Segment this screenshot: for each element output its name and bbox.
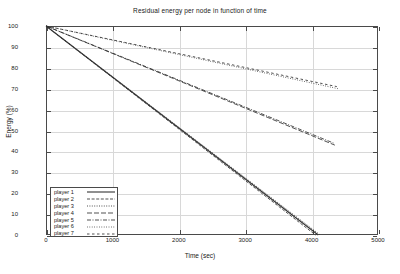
legend-item-label: player 5 [54,217,86,224]
x-axis-tick [180,230,181,234]
x-axis-tick [47,230,48,234]
y-axis-tick [373,152,377,153]
legend-item: player 1 [54,189,115,196]
x-axis-label: 2000 [172,237,185,243]
x-axis-label: 1000 [106,237,119,243]
legend-line-swatch [86,203,115,209]
x-axis-tick [246,230,247,234]
legend-item-label: player 3 [54,203,86,210]
legend-item-label: player 4 [54,210,86,217]
legend-item: player 2 [54,196,115,203]
y-axis-label: 50 [11,128,18,134]
y-axis-tick [373,111,377,112]
x-axis-title: Time (sec) [0,252,400,259]
x-axis-label: 5000 [371,237,384,243]
y-axis-tick [373,173,377,174]
legend-line-swatch [86,231,115,237]
y-axis-label: 10 [11,211,18,217]
legend-item-label: player 2 [54,196,86,203]
y-axis-tick [47,69,51,70]
y-axis-tick [47,90,51,91]
y-axis-tick [373,194,377,195]
y-axis-label: 90 [11,44,18,50]
y-axis-title: Energy (%) [5,92,12,152]
x-axis-tick [246,27,247,31]
y-axis-label: 70 [11,86,18,92]
y-axis-label: 100 [8,23,18,29]
x-axis-tick [113,27,114,31]
legend-item-label: player 6 [54,223,86,230]
gridline-vertical [180,27,181,234]
x-axis-tick [379,27,380,31]
gridline-horizontal [47,173,377,174]
legend-item-label: player 1 [54,189,86,196]
y-axis-tick [373,132,377,133]
y-axis-tick [373,27,377,28]
y-axis-tick [47,152,51,153]
y-axis-label: 80 [11,65,18,71]
legend-line-swatch [86,196,115,202]
legend-item: player 3 [54,203,115,210]
y-axis-tick [47,132,51,133]
x-axis-tick [313,230,314,234]
y-axis-tick [47,27,51,28]
y-axis-tick [373,90,377,91]
x-axis-label: 4000 [305,237,318,243]
legend-item: player 4 [54,210,115,217]
y-axis-tick [47,48,51,49]
gridline-horizontal [47,90,377,91]
legend-line-swatch [86,189,115,195]
legend-line-swatch [86,210,115,216]
x-axis-tick [180,27,181,31]
legend-item: player 6 [54,223,115,230]
chart-title: Residual energy per node in function of … [0,7,400,14]
legend-item: player 5 [54,217,115,224]
legend-line-swatch [86,224,115,230]
y-axis-label: 60 [11,107,18,113]
x-axis-label: 0 [44,237,47,243]
gridline-vertical [246,27,247,234]
gridline-horizontal [47,69,377,70]
y-axis-tick [47,173,51,174]
x-axis-label: 3000 [239,237,252,243]
gridline-vertical [313,27,314,234]
x-axis-tick [313,27,314,31]
y-axis-tick [373,215,377,216]
legend-item-label: player 7 [54,230,86,237]
legend-line-swatch [86,217,115,223]
y-axis-tick [373,69,377,70]
legend-item: player 7 [54,230,115,237]
gridline-horizontal [47,132,377,133]
gridline-horizontal [47,152,377,153]
y-axis-tick [47,111,51,112]
chart-container: Residual energy per node in function of … [0,0,400,274]
y-axis-label: 30 [11,169,18,175]
gridline-horizontal [47,48,377,49]
gridline-horizontal [47,111,377,112]
legend: player 1player 2player 3player 4player 5… [50,187,118,237]
y-axis-label: 0 [15,232,18,238]
x-axis-tick [379,230,380,234]
y-axis-label: 20 [11,190,18,196]
y-axis-label: 40 [11,148,18,154]
y-axis-tick [373,48,377,49]
